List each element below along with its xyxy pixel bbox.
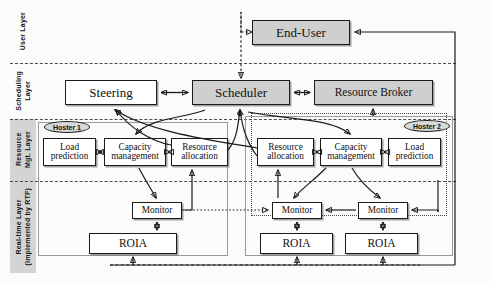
layer-label-resource: Resource Mgt. Layer <box>15 131 32 168</box>
edge-h1alloc-scheduler <box>228 110 240 150</box>
node-monitor-3[interactable]: Monitor <box>358 202 408 219</box>
layer-band-resource: Resource Mgt. Layer <box>10 119 36 181</box>
layer-separator-user-scheduling <box>10 63 456 64</box>
edge-roia-bus <box>110 257 420 265</box>
node-roia-2[interactable]: ROIA <box>260 233 333 254</box>
hoster2-tag: Hoster 2 <box>404 120 450 132</box>
edge-enduser-scheduler <box>241 12 252 78</box>
layer-label-user: User Layer <box>19 12 28 50</box>
node-hoster2-resource-allocation[interactable]: Resource allocation <box>257 138 314 166</box>
node-resource-broker[interactable]: Resource Broker <box>314 80 433 105</box>
node-hoster1-resource-allocation[interactable]: Resource allocation <box>171 138 228 166</box>
node-hoster1-capacity-management[interactable]: Capacity management <box>104 138 166 166</box>
node-scheduler[interactable]: Scheduler <box>192 80 290 105</box>
node-hoster2-load-prediction[interactable]: Load prediction <box>388 138 441 166</box>
layer-label-scheduling: Scheduling Layer <box>15 71 32 111</box>
node-roia-3[interactable]: ROIA <box>345 233 418 254</box>
node-hoster1-load-prediction[interactable]: Load prediction <box>43 138 96 166</box>
node-monitor-2[interactable]: Monitor <box>272 202 322 219</box>
layer-band-scheduling: Scheduling Layer <box>10 63 36 119</box>
node-monitor-1[interactable]: Monitor <box>132 202 182 219</box>
node-roia-1[interactable]: ROIA <box>89 233 177 254</box>
layer-label-realtime: Real-time Layer (implemented by RTF) <box>15 188 32 266</box>
layer-label-rail: User Layer Scheduling Layer Resource Mgt… <box>10 0 36 282</box>
layer-band-realtime: Real-time Layer (implemented by RTF) <box>10 181 36 273</box>
node-steering[interactable]: Steering <box>65 80 157 105</box>
node-end-user[interactable]: End-User <box>252 20 350 45</box>
architecture-diagram: User Layer Scheduling Layer Resource Mgt… <box>0 0 492 282</box>
hoster1-tag: Hoster 1 <box>44 121 90 133</box>
layer-band-user: User Layer <box>10 0 36 63</box>
node-hoster2-capacity-management[interactable]: Capacity management <box>320 138 382 166</box>
